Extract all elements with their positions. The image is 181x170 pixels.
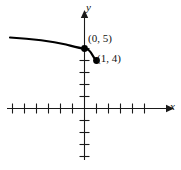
y-axis-label: y xyxy=(86,2,91,13)
x-axis-label: x xyxy=(170,101,175,112)
graph-figure: y x (0, 5) (1, 4) xyxy=(0,0,181,170)
point-marker-0-5 xyxy=(81,45,88,52)
point-label-0-5: (0, 5) xyxy=(88,33,112,44)
coordinate-plane xyxy=(0,0,181,170)
point-label-1-4: (1, 4) xyxy=(97,53,121,64)
